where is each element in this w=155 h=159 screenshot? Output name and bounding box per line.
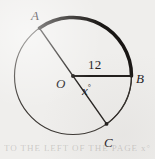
central-angle-x-label: x° bbox=[82, 84, 91, 97]
scan-bleed-through-text: TO THE LEFT OF THE PAGE x° AND bbox=[4, 143, 152, 153]
radius-length-label: 12 bbox=[88, 58, 101, 71]
point-label-b: B bbox=[136, 72, 144, 85]
circle-diagram-figure: A B C O 12 x° TO THE LEFT OF THE PAGE x°… bbox=[0, 0, 155, 159]
center-point-marker-o bbox=[71, 74, 75, 78]
point-label-a: A bbox=[31, 9, 39, 22]
point-marker-c bbox=[105, 122, 109, 126]
degree-symbol: ° bbox=[88, 83, 91, 92]
figure-canvas bbox=[0, 0, 155, 159]
arc-b-to-c bbox=[107, 76, 132, 124]
center-label-o: O bbox=[56, 77, 65, 90]
